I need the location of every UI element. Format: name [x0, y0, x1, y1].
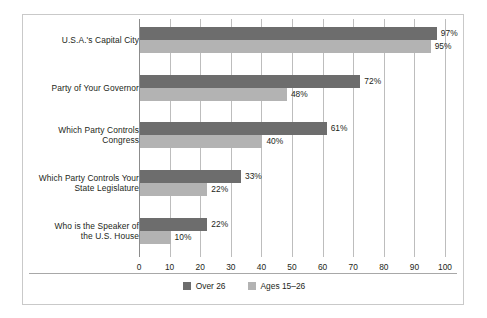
gridline — [445, 19, 446, 257]
bar-value-label: 48% — [291, 88, 308, 101]
x-axis-tick-label: 10 — [158, 262, 182, 272]
category-label: Party of Your Governor — [27, 83, 139, 94]
bar[interactable] — [140, 40, 431, 53]
chart-figure: 0102030405060708090100U.S.A.'s Capital C… — [22, 14, 464, 305]
gridline — [292, 19, 293, 257]
legend-swatch-icon — [248, 282, 256, 290]
x-axis-tick-label: 50 — [280, 262, 304, 272]
bar[interactable] — [140, 27, 437, 40]
legend-swatch-icon — [183, 282, 191, 290]
x-axis-tick-label: 20 — [188, 262, 212, 272]
category-label-line: Congress — [27, 135, 139, 146]
category-label-line: Who is the Speaker of — [27, 221, 139, 232]
category-label: Who is the Speaker ofthe U.S. House — [27, 221, 139, 242]
bar[interactable] — [140, 122, 327, 135]
x-axis-tick-label: 90 — [402, 262, 426, 272]
bar[interactable] — [140, 231, 171, 244]
x-axis-tick-label: 60 — [311, 262, 335, 272]
category-label-line: Which Party Controls — [27, 125, 139, 136]
category-label-line: Which Party Controls Your — [27, 173, 139, 184]
bar[interactable] — [140, 88, 287, 101]
bar-value-label: 33% — [245, 170, 262, 183]
bar-value-label: 97% — [441, 27, 458, 40]
x-axis-tick-label: 70 — [341, 262, 365, 272]
gridline — [323, 19, 324, 257]
category-label-line: the U.S. House — [27, 231, 139, 242]
bar-value-label: 22% — [211, 183, 228, 196]
legend-item-over-26[interactable]: Over 26 — [183, 281, 226, 291]
bar-value-label: 72% — [364, 75, 381, 88]
bar-value-label: 10% — [175, 231, 192, 244]
x-axis-tick-label: 30 — [219, 262, 243, 272]
x-axis-tick-label: 80 — [372, 262, 396, 272]
x-axis-tick-label: 0 — [127, 262, 151, 272]
legend-item-ages-15-26[interactable]: Ages 15–26 — [248, 281, 306, 291]
category-label-line: U.S.A.'s Capital City — [27, 35, 139, 46]
x-axis-tick-label: 100 — [433, 262, 457, 272]
gridline — [414, 19, 415, 257]
legend-separator — [29, 273, 457, 274]
bar-value-label: 95% — [435, 40, 452, 53]
chart-legend: Over 26 Ages 15–26 — [23, 281, 465, 291]
plot-area: 0102030405060708090100U.S.A.'s Capital C… — [23, 15, 465, 306]
legend-label: Over 26 — [196, 281, 226, 291]
category-label-line: State Legislature — [27, 183, 139, 194]
bar-value-label: 22% — [211, 218, 228, 231]
gridline — [384, 19, 385, 257]
bar[interactable] — [140, 170, 241, 183]
gridline — [353, 19, 354, 257]
category-label: Which Party ControlsCongress — [27, 125, 139, 146]
bar[interactable] — [140, 135, 262, 148]
category-label: Which Party Controls YourState Legislatu… — [27, 173, 139, 194]
bar-value-label: 61% — [331, 122, 348, 135]
bar[interactable] — [140, 218, 207, 231]
bar-value-label: 40% — [266, 135, 283, 148]
bar[interactable] — [140, 75, 360, 88]
bar[interactable] — [140, 183, 207, 196]
legend-label: Ages 15–26 — [261, 281, 306, 291]
category-label-line: Party of Your Governor — [27, 83, 139, 94]
x-axis-tick-label: 40 — [249, 262, 273, 272]
category-label: U.S.A.'s Capital City — [27, 35, 139, 46]
